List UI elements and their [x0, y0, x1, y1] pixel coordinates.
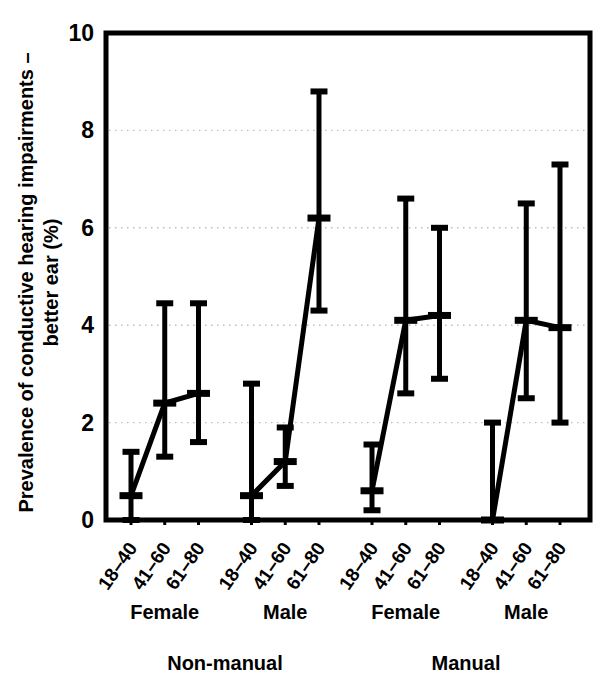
group-label-2-female: Female [371, 601, 440, 623]
y-tick-label-10: 10 [68, 20, 94, 46]
supergroup-label-non-manual: Non-manual [167, 652, 283, 674]
supergroup-label-manual: Manual [432, 652, 501, 674]
y-tick-label-0: 0 [81, 507, 94, 533]
group-label-1-male: Male [263, 601, 307, 623]
chart-figure: 0246810 Prevalence of conductive hearing… [0, 0, 604, 694]
y-axis-title-line-2: better ear (%) [40, 219, 62, 347]
y-tick-label-2: 2 [81, 410, 94, 436]
group-label-0-female: Female [130, 601, 199, 623]
group-label-3-male: Male [504, 601, 548, 623]
y-tick-label-8: 8 [81, 117, 94, 143]
y-tick-label-4: 4 [81, 312, 94, 338]
y-tick-label-6: 6 [81, 215, 94, 241]
prevalence-error-bar-chart: 0246810 Prevalence of conductive hearing… [0, 0, 604, 694]
y-axis-title-line-1: Prevalence of conductive hearing impairm… [15, 52, 37, 512]
